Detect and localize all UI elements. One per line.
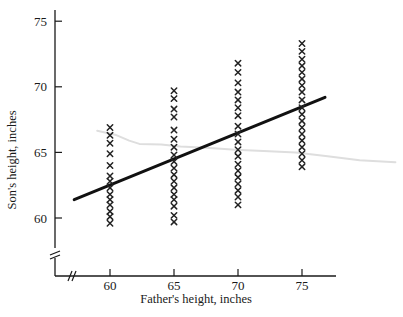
data-markers-group xyxy=(107,41,304,226)
y-tick-label: 75 xyxy=(34,14,47,29)
data-point-x-marker xyxy=(299,138,304,143)
data-point-x-marker xyxy=(171,137,176,142)
data-point-x-marker xyxy=(107,202,112,207)
data-point-x-marker xyxy=(107,151,112,156)
data-point-x-marker xyxy=(299,97,304,102)
data-point-x-marker xyxy=(235,60,240,65)
data-point-x-marker xyxy=(235,162,240,167)
y-axis-break-icon xyxy=(50,251,60,255)
data-point-x-marker xyxy=(299,158,304,163)
data-point-x-marker xyxy=(171,192,176,197)
x-axis-title: Father's height, inches xyxy=(140,292,252,306)
y-tick-label: 70 xyxy=(34,79,47,94)
data-point-x-marker xyxy=(235,194,240,199)
data-point-x-marker xyxy=(107,209,112,214)
data-point-x-marker xyxy=(299,83,304,88)
x-tick-label: 70 xyxy=(232,278,245,293)
data-point-x-marker xyxy=(299,164,304,169)
data-point-x-marker xyxy=(107,163,112,168)
data-point-x-marker xyxy=(171,114,176,119)
data-point-x-marker xyxy=(299,57,304,62)
sma-curve xyxy=(97,131,395,162)
data-point-x-marker xyxy=(235,168,240,173)
data-point-x-marker xyxy=(299,112,304,117)
data-point-x-marker xyxy=(171,213,176,218)
data-point-x-marker xyxy=(171,203,176,208)
data-point-x-marker xyxy=(235,123,240,128)
y-tick-label: 60 xyxy=(34,211,47,226)
data-point-x-marker xyxy=(235,154,240,159)
data-point-x-marker xyxy=(107,179,112,184)
data-point-x-marker xyxy=(107,214,112,219)
y-tick-label: 65 xyxy=(34,145,47,160)
data-point-x-marker xyxy=(107,173,112,178)
data-point-x-marker xyxy=(235,80,240,85)
data-point-x-marker xyxy=(235,89,240,94)
data-point-x-marker xyxy=(171,106,176,111)
x-axis-ticks: 60657075 xyxy=(104,269,309,293)
data-point-x-marker xyxy=(171,179,176,184)
chart-canvas: 60657075 60657075 Father's height, inche… xyxy=(0,0,403,317)
data-point-x-marker xyxy=(171,152,176,157)
data-point-x-marker xyxy=(235,139,240,144)
data-point-x-marker xyxy=(299,89,304,94)
data-point-x-marker xyxy=(107,125,112,130)
data-point-x-marker xyxy=(107,141,112,146)
scatter-plot-figure: 60657075 60657075 Father's height, inche… xyxy=(0,0,403,317)
data-point-x-marker xyxy=(107,192,112,197)
x-tick-label: 65 xyxy=(168,278,181,293)
data-point-x-marker xyxy=(299,76,304,81)
data-point-x-marker xyxy=(299,144,304,149)
data-point-x-marker xyxy=(235,202,240,207)
data-point-x-marker xyxy=(171,219,176,224)
data-point-x-marker xyxy=(235,175,240,180)
axes-group xyxy=(55,10,336,276)
x-tick-label: 75 xyxy=(296,278,309,293)
data-point-x-marker xyxy=(299,125,304,130)
data-point-x-marker xyxy=(171,96,176,101)
data-point-x-marker xyxy=(299,131,304,136)
data-point-x-marker xyxy=(299,118,304,123)
data-point-x-marker xyxy=(299,41,304,46)
data-point-x-marker xyxy=(235,113,240,118)
data-point-x-marker xyxy=(299,63,304,68)
data-point-x-marker xyxy=(107,197,112,202)
y-axis-ticks: 60657075 xyxy=(34,14,62,226)
data-point-x-marker xyxy=(171,172,176,177)
data-point-x-marker xyxy=(107,221,112,226)
data-point-x-marker xyxy=(235,97,240,102)
regression-line xyxy=(74,97,325,199)
data-point-x-marker xyxy=(299,70,304,75)
data-point-x-marker xyxy=(299,49,304,54)
data-point-x-marker xyxy=(171,185,176,190)
data-point-x-marker xyxy=(171,127,176,132)
data-point-x-marker xyxy=(235,188,240,193)
x-tick-label: 60 xyxy=(104,278,117,293)
data-point-x-marker xyxy=(171,165,176,170)
data-point-x-marker xyxy=(235,181,240,186)
y-axis-title: Son's height, inches xyxy=(5,110,19,209)
data-point-x-marker xyxy=(235,105,240,110)
data-point-x-marker xyxy=(171,197,176,202)
data-point-x-marker xyxy=(171,88,176,93)
data-point-x-marker xyxy=(235,70,240,75)
